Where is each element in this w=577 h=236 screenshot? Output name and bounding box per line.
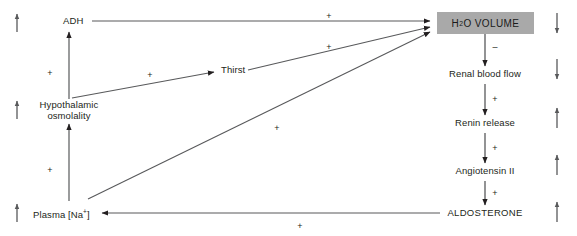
node-label-osmolality: osmolality (47, 110, 90, 122)
physiology-flow-diagram: ADH Thirst Hypothalamic osmolality Plasm… (0, 0, 577, 236)
sign-renal-blood-to-renin: + (492, 95, 497, 104)
h2o-volume-box: H2O VOLUME (437, 12, 534, 34)
h2o-volume-text-h: H (452, 18, 460, 29)
node-label-plasma-na: Plasma [Na+] (33, 206, 90, 221)
sign-adh-to-h2o-volume: + (326, 12, 331, 21)
node-label-adh: ADH (63, 15, 83, 27)
sign-hypothalamic-to-thirst: + (147, 71, 152, 80)
node-label-aldosterone: ALDOSTERONE (447, 207, 522, 219)
sign-aldosterone-to-plasma-na: + (297, 222, 302, 231)
sign-renin-to-angiotensin: + (492, 144, 497, 153)
sign-plasma-na-to-hypothalamic: + (47, 166, 52, 175)
flow-arrow-thirst-to-h2o-volume (248, 27, 430, 70)
sign-hypothalamic-to-adh: + (47, 69, 52, 78)
flow-arrow-hypothalamic-to-thirst (72, 72, 214, 98)
node-label-renin-release: Renin release (455, 117, 515, 129)
plasma-na-text: Plasma [Na (33, 209, 83, 220)
plasma-na-bracket: ] (87, 209, 90, 220)
node-label-thirst: Thirst (221, 64, 245, 76)
flow-arrow-plasma-na-to-h2o-volume (88, 32, 430, 199)
sign-h2o-volume-to-renal-blood: – (492, 43, 497, 52)
h2o-volume-text-rest: O VOLUME (463, 18, 519, 29)
node-label-angiotensin-ii: Angiotensin II (456, 165, 515, 177)
sign-angiotensin-to-aldosterone: + (492, 189, 497, 198)
sign-thirst-to-h2o-volume: + (326, 43, 331, 52)
sign-plasma-na-to-h2o-volume: + (274, 124, 279, 133)
node-label-renal-blood-flow: Renal blood flow (449, 68, 521, 80)
node-label-hypothalamic: Hypothalamic (40, 99, 99, 111)
